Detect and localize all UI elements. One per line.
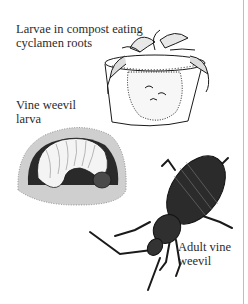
adult-vine-weevil-illustration: [0, 0, 248, 304]
